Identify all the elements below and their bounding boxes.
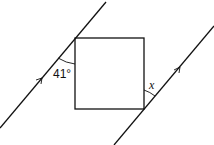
angle-arc-41	[58, 58, 75, 64]
square	[75, 38, 144, 109]
geometry-diagram: 41° x	[0, 0, 214, 145]
parallel-line-right	[114, 26, 214, 145]
angle-label-41: 41°	[53, 67, 71, 81]
angle-label-x: x	[148, 78, 155, 92]
